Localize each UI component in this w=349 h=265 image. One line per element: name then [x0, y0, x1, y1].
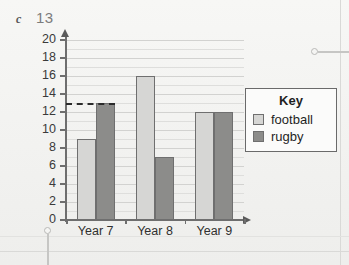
bottom-left-callout-dot-icon [44, 227, 51, 234]
y-axis-tick-label: 0 [34, 212, 56, 226]
legend-label-rugby: rugby [271, 129, 304, 144]
y-axis-tick-label: 14 [34, 86, 56, 100]
y-axis-arrow-icon [61, 29, 69, 37]
gridline-minor [66, 49, 244, 50]
y-axis-tick-label: 18 [34, 50, 56, 64]
y-axis-tick-label: 6 [34, 158, 56, 172]
legend-item-football: football [246, 111, 336, 128]
y-axis-tick [60, 129, 66, 131]
bottom-left-callout-leader-line [47, 234, 49, 265]
y-axis-tick [60, 183, 66, 185]
gridline-minor [66, 85, 244, 86]
bar-rugby-year-9 [214, 112, 233, 220]
y-axis-tick-label: 4 [34, 176, 56, 190]
gridline-minor [66, 67, 244, 68]
gridline-major [66, 76, 244, 77]
y-axis-tick [60, 165, 66, 167]
y-axis-tick-label: 2 [34, 194, 56, 208]
x-axis-tick-label: Year 7 [66, 224, 126, 238]
bar-football-year-7 [77, 139, 96, 220]
y-axis-tick-label: 20 [34, 32, 56, 46]
top-right-callout-dot-icon [311, 48, 318, 55]
y-axis-tick-label: 8 [34, 140, 56, 154]
x-axis-tick-label: Year 8 [125, 224, 185, 238]
y-axis-tick-label: 12 [34, 104, 56, 118]
bar-football-year-8 [136, 76, 155, 220]
bar-rugby-year-8 [155, 157, 174, 220]
worksheet-page: c 13 02468101214161820 Year 7Year 8Year … [0, 0, 349, 265]
x-axis-tick-label: Year 9 [184, 224, 244, 238]
top-right-callout-leader-line [318, 51, 349, 53]
legend-label-football: football [271, 112, 313, 127]
y-axis-tick-label: 16 [34, 68, 56, 82]
legend-title: Key [246, 93, 336, 108]
y-axis-tick [60, 111, 66, 113]
bar-rugby-year-7 [96, 103, 115, 220]
legend-swatch-football [253, 114, 264, 125]
gridline-major [66, 40, 244, 41]
y-axis-tick [60, 57, 66, 59]
y-axis-tick [60, 93, 66, 95]
legend-swatch-rugby [253, 131, 264, 142]
y-axis-tick-label: 10 [34, 122, 56, 136]
legend-item-rugby: rugby [246, 128, 336, 145]
y-axis-tick [60, 201, 66, 203]
chart-legend: Key football rugby [245, 88, 337, 152]
dashed-guide-line-segment [66, 103, 115, 105]
y-axis-tick [60, 147, 66, 149]
y-axis-tick [60, 75, 66, 77]
bar-football-year-9 [195, 112, 214, 220]
y-axis-tick [60, 39, 66, 41]
gridline-major [66, 94, 244, 95]
gridline-major [66, 58, 244, 59]
